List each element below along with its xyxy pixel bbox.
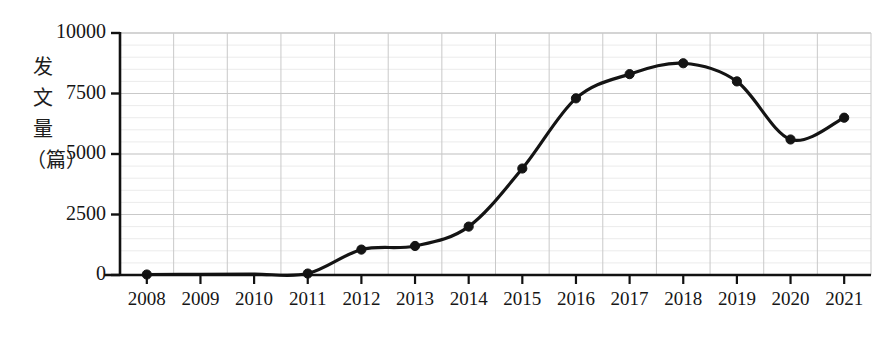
data-point-marker bbox=[410, 241, 419, 250]
y-axis-tick-label: 0 bbox=[96, 262, 106, 285]
data-point-marker bbox=[357, 245, 366, 254]
y-axis-title: 发 文 量 （篇） bbox=[26, 52, 60, 176]
x-axis-tick-label: 2012 bbox=[331, 288, 391, 310]
data-point-marker bbox=[571, 94, 580, 103]
x-axis-tick-label: 2016 bbox=[546, 288, 606, 310]
y-axis-tick-label: 7500 bbox=[66, 81, 106, 104]
x-axis-tick-label: 2020 bbox=[761, 288, 821, 310]
chart-figure: 发 文 量 （篇） 025005000750010000200820092010… bbox=[0, 0, 892, 345]
data-point-marker bbox=[625, 70, 634, 79]
data-point-marker bbox=[732, 77, 741, 86]
x-axis-tick-label: 2009 bbox=[170, 288, 230, 310]
data-point-marker bbox=[679, 59, 688, 68]
data-point-marker bbox=[464, 222, 473, 231]
x-axis-tick-label: 2017 bbox=[600, 288, 660, 310]
y-axis-tick-label: 5000 bbox=[66, 141, 106, 164]
data-point-marker bbox=[840, 113, 849, 122]
x-axis-tick-label: 2008 bbox=[117, 288, 177, 310]
x-axis-tick-label: 2013 bbox=[385, 288, 445, 310]
x-axis-tick-label: 2015 bbox=[492, 288, 552, 310]
x-axis-tick-label: 2019 bbox=[707, 288, 767, 310]
x-axis-tick-label: 2014 bbox=[439, 288, 499, 310]
y-axis-tick-label: 2500 bbox=[66, 202, 106, 225]
x-axis-tick-label: 2021 bbox=[814, 288, 874, 310]
x-axis-tick-label: 2011 bbox=[278, 288, 338, 310]
y-axis-tick-label: 10000 bbox=[56, 20, 106, 43]
x-axis-tick-label: 2018 bbox=[653, 288, 713, 310]
data-point-marker bbox=[518, 164, 527, 173]
data-point-marker bbox=[786, 135, 795, 144]
x-axis-tick-label: 2010 bbox=[224, 288, 284, 310]
